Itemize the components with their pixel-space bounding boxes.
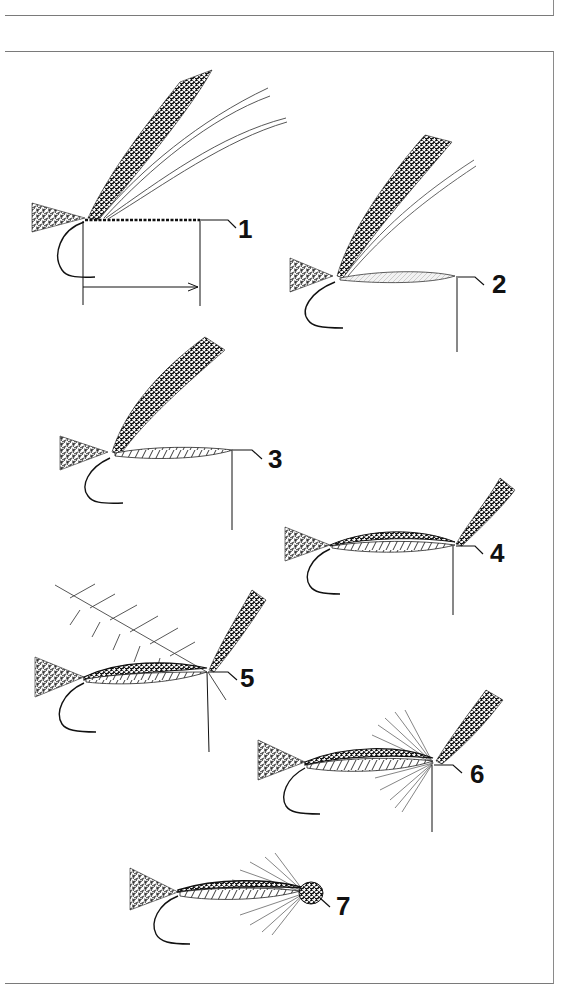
hook-icon	[85, 458, 123, 503]
tail-icon	[35, 657, 84, 697]
hackle-feather-icon	[55, 584, 207, 672]
upright-wing-icon	[456, 478, 515, 546]
step-5-label: 5	[240, 663, 254, 693]
step-4-illustration: 4	[285, 478, 515, 615]
step-3-illustration: 3	[60, 337, 282, 530]
hook-icon	[307, 549, 340, 594]
step-2-label: 2	[492, 269, 506, 299]
tail-icon	[130, 868, 178, 910]
wing-bundle-icon	[337, 135, 452, 278]
thread-line	[207, 672, 209, 752]
step-6-illustration: 6	[258, 690, 503, 832]
wing-bundle-icon	[112, 337, 225, 455]
step-7-label: 7	[336, 891, 350, 921]
step-6-label: 6	[470, 759, 484, 789]
hook-eye-icon	[233, 450, 262, 459]
hook-icon	[305, 282, 343, 328]
step-1-illustration: 1	[32, 70, 287, 306]
hook-eye-icon	[434, 765, 462, 773]
underbody-icon	[340, 272, 455, 283]
step-7-illustration: 7	[130, 853, 350, 944]
ribbed-body-icon	[115, 447, 233, 458]
hook-eye-icon	[456, 277, 484, 285]
hook-icon	[154, 896, 190, 944]
ribbed-body-icon	[180, 888, 300, 899]
hook-eye-icon	[320, 898, 330, 907]
upright-wing-icon	[436, 690, 503, 764]
hook-icon	[59, 683, 96, 732]
tail-icon	[258, 740, 305, 780]
tail-icon	[32, 203, 85, 232]
tail-icon	[290, 258, 333, 292]
step-2-illustration: 2	[290, 135, 506, 352]
tail-icon	[60, 436, 108, 470]
step-1-label: 1	[238, 214, 252, 244]
fly-tying-steps-illustration: 1 2 3 4	[0, 0, 574, 1007]
step-3-label: 3	[268, 444, 282, 474]
hook-eye-icon	[456, 546, 483, 554]
hook-icon	[58, 222, 95, 277]
upright-wing-icon	[209, 590, 266, 672]
ribbed-body-icon	[332, 541, 455, 552]
head-icon	[299, 882, 323, 904]
wing-bundle-icon	[88, 70, 212, 220]
hackle-stem-icon	[208, 672, 226, 700]
hook-icon	[284, 768, 320, 814]
step-5-illustration: 5	[35, 584, 266, 752]
hook-eye-icon	[200, 220, 236, 228]
tail-icon	[285, 527, 330, 561]
step-4-label: 4	[490, 538, 505, 568]
